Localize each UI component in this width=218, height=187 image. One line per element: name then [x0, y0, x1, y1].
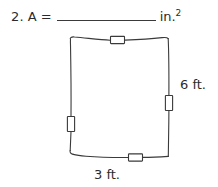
- tick-mark-top: [111, 36, 125, 43]
- rectangle-outline: [70, 37, 169, 158]
- rectangle-edge-right: [168, 39, 169, 96]
- side-label-right: 6 ft.: [180, 77, 206, 92]
- rectangle-edge-bottom: [143, 156, 168, 157]
- tick-mark-left: [67, 117, 74, 132]
- worksheet-problem: 2. A = in.2 6 ft.: [0, 0, 218, 187]
- rectangle-figure: [0, 0, 218, 187]
- rectangle-edge-right-lower: [168, 111, 169, 157]
- rectangle-edge-left: [70, 40, 71, 117]
- tick-mark-right: [165, 96, 172, 111]
- rectangle-edge-bottom-left-hook: [70, 151, 73, 155]
- tick-mark-bottom: [129, 154, 143, 161]
- rectangle-edge-bottom-left: [73, 154, 128, 157]
- tick-marks-group: [67, 36, 172, 161]
- rectangle-edge-top: [70, 37, 110, 40]
- rectangle-edge-top-right: [125, 37, 168, 40]
- rectangle-edge-left-lower: [70, 132, 71, 151]
- side-label-bottom: 3 ft.: [94, 167, 120, 182]
